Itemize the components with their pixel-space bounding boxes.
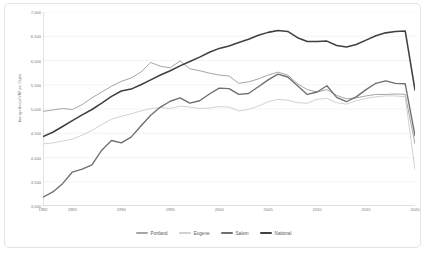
legend-item-national[interactable]: National [260,231,292,236]
chart-legend: PortlandEugeneSalemNational [5,226,422,240]
x-tick-label: 1995 [166,207,175,212]
legend-swatch-portland [136,232,148,233]
x-tick-label: 2020 [410,207,419,212]
legend-item-eugene[interactable]: Eugene [179,231,210,236]
legend-swatch-national [260,232,272,234]
legend-label: National [275,231,292,236]
legend-swatch-salem [221,232,233,234]
y-axis-tick-labels: 7,0006,5006,0005,5005,0004,5004,0003,500… [15,12,41,206]
chart-figure: Average Annual VMT per Capita 7,0006,500… [4,3,421,248]
legend-label: Salem [236,231,249,236]
legend-label: Portland [151,231,168,236]
y-tick-label: 7,000 [31,10,41,15]
legend-item-portland[interactable]: Portland [136,231,168,236]
series-line-eugene [43,96,415,170]
y-tick-label: 5,000 [31,107,41,112]
x-tick-label: 2015 [361,207,370,212]
legend-label: Eugene [194,231,210,236]
x-tick-label: 2005 [264,207,273,212]
y-tick-label: 3,500 [31,179,41,184]
x-tick-label: 1985 [68,207,77,212]
y-tick-label: 5,500 [31,82,41,87]
series-line-national [43,30,415,136]
y-tick-label: 4,000 [31,155,41,160]
x-tick-label: 1990 [117,207,126,212]
x-tick-label: 1982 [38,207,47,212]
series-line-salem [43,74,415,197]
series-line-portland [43,61,415,144]
plot-area [43,12,415,206]
x-tick-label: 2000 [215,207,224,212]
plot-container: Average Annual VMT per Capita 7,0006,500… [5,4,422,249]
x-axis-tick-labels: 198219851990199520002005201020152020 [5,207,422,219]
x-tick-label: 2010 [313,207,322,212]
chart-svg [43,12,415,206]
y-tick-label: 4,500 [31,131,41,136]
y-tick-label: 6,000 [31,58,41,63]
legend-item-salem[interactable]: Salem [221,231,249,236]
legend-swatch-eugene [179,232,191,233]
y-tick-label: 6,500 [31,34,41,39]
